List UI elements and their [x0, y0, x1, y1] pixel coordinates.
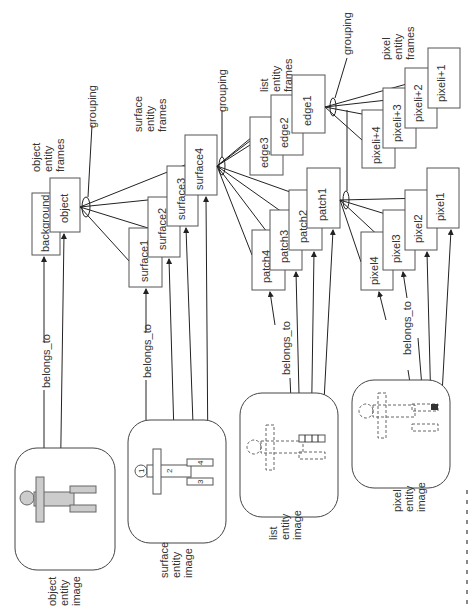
belongs-to-label: belongs_to [280, 321, 292, 375]
belongs-to-label: belongs_to [141, 324, 153, 378]
svg-text:pixeli+1: pixeli+1 [435, 64, 447, 102]
frame-background-label: background [39, 195, 51, 253]
svg-text:image: image [415, 482, 427, 512]
pixel-frames-label: pixel entity frames [380, 26, 416, 60]
grouping-label: grouping [86, 85, 98, 128]
svg-text:list: list [258, 79, 270, 92]
svg-text:surface: surface [132, 96, 144, 132]
surface-frames-label: surface entity frames [132, 96, 168, 132]
grouping-pointer [335, 58, 347, 98]
grouping-label: grouping [341, 12, 353, 55]
belongs-to-arrow [270, 292, 275, 325]
svg-text:entity: entity [392, 33, 404, 60]
frame-object-label: object [58, 194, 70, 223]
svg-text:4: 4 [196, 460, 205, 465]
svg-text:pixel3: pixel3 [390, 234, 402, 263]
svg-text:frames: frames [156, 98, 168, 132]
svg-text:surface: surface [158, 542, 170, 578]
svg-text:entity: entity [58, 579, 70, 606]
svg-text:pixel: pixel [380, 37, 392, 60]
pixel-highlight [431, 404, 438, 410]
svg-text:entity: entity [42, 145, 54, 172]
svg-text:2: 2 [165, 468, 174, 473]
svg-text:object: object [30, 143, 42, 172]
svg-text:pixel2: pixel2 [412, 214, 424, 243]
svg-text:frames: frames [54, 138, 66, 172]
svg-text:entity: entity [270, 65, 282, 92]
svg-text:list: list [267, 527, 279, 540]
svg-text:surface4: surface4 [193, 148, 205, 190]
belongs-to-label: belongs_to [40, 334, 52, 388]
pixel-entity-image [352, 380, 450, 488]
svg-text:edge3: edge3 [258, 137, 270, 168]
surface-image-label: surface entity image [158, 542, 194, 578]
svg-text:1: 1 [137, 468, 146, 473]
svg-text:image: image [291, 510, 303, 540]
grouping-pointer [88, 125, 92, 197]
svg-text:entity: entity [279, 513, 291, 540]
list-frames-label: list entity frames [258, 58, 294, 92]
svg-text:pixeli+2: pixeli+2 [412, 84, 424, 122]
object-image-label: object entity image [46, 576, 82, 606]
belongs-to-label: belongs_to [401, 301, 413, 355]
svg-text:image: image [182, 548, 194, 578]
svg-text:patch1: patch1 [316, 188, 328, 221]
svg-text:object: object [46, 577, 58, 606]
svg-text:pixel4: pixel4 [368, 256, 380, 285]
entity-hierarchy-diagram: object entity frames background object g… [0, 0, 472, 610]
svg-text:entity: entity [144, 105, 156, 132]
svg-text:entity: entity [170, 551, 182, 578]
svg-text:edge1: edge1 [301, 95, 313, 126]
svg-text:pixeli+4: pixeli+4 [370, 126, 382, 164]
grouping-ellipse-list [330, 98, 336, 116]
svg-text:patch3: patch3 [278, 230, 290, 263]
svg-text:frames: frames [404, 26, 416, 60]
belongs-to-arrow [379, 292, 386, 320]
svg-text:edge2: edge2 [278, 117, 290, 148]
belongs-to-arrow [403, 272, 407, 298]
svg-text:3: 3 [196, 479, 205, 484]
svg-text:pixel1: pixel1 [434, 192, 446, 221]
svg-text:pixeli+3: pixeli+3 [391, 104, 403, 142]
grouping-label: grouping [216, 69, 228, 112]
list-entity-image [240, 393, 338, 517]
svg-text:pixel: pixel [391, 489, 403, 512]
object-entity-image [15, 448, 115, 570]
svg-text:entity: entity [403, 485, 415, 512]
svg-text:surface2: surface2 [156, 208, 168, 250]
svg-text:image: image [70, 576, 82, 606]
object-frames-label: object entity frames [30, 138, 66, 172]
